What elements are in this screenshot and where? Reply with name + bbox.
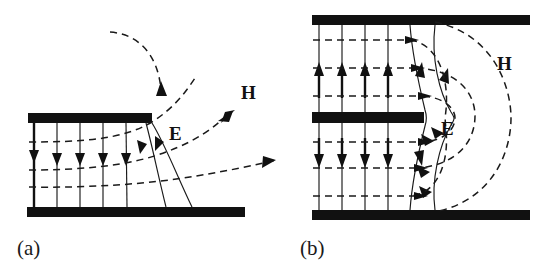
plate-bottom-b: [312, 210, 530, 220]
label-h-b: H: [497, 53, 512, 74]
label-h-a: H: [241, 82, 256, 103]
panel-b: E H (b): [279, 0, 558, 267]
figure-container: E H (a): [0, 0, 558, 267]
caption-b: (b): [300, 236, 325, 260]
plate-center-b: [312, 112, 424, 123]
label-e-a: E: [169, 123, 182, 144]
plate-top-b: [312, 15, 530, 25]
panel-a: E H (a): [0, 0, 279, 267]
plate-bottom-a: [27, 207, 245, 217]
e-field-arrowheads-a: [29, 136, 164, 166]
caption-a: (a): [17, 236, 40, 260]
plate-top-a: [28, 113, 152, 123]
h-field-lines-a: [29, 32, 276, 187]
label-e-b: E: [441, 118, 454, 139]
e-field-arrowheads-b: [314, 62, 449, 198]
